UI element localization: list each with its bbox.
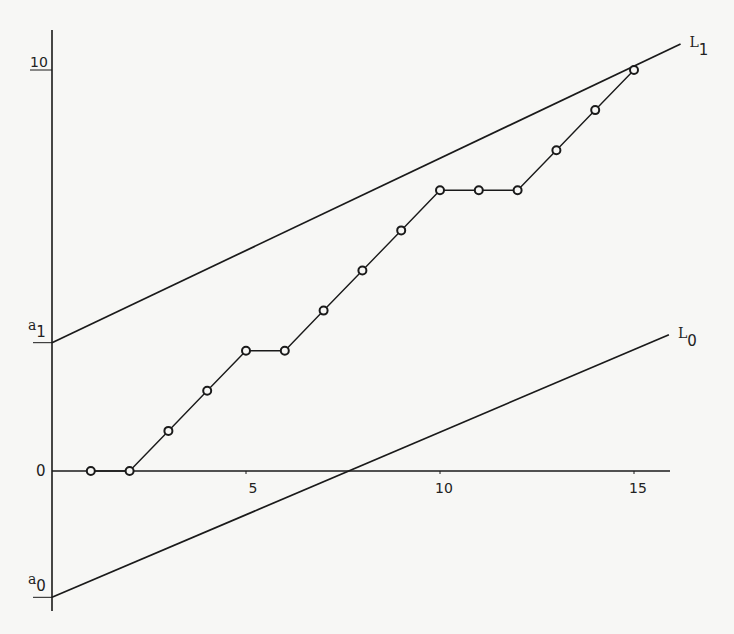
data-point: [126, 467, 134, 475]
line-L1: [52, 44, 681, 343]
data-point: [397, 226, 405, 234]
data-series: [87, 66, 638, 475]
y-tick-label: 10: [30, 54, 48, 70]
boundary-lines: [33, 44, 681, 597]
intercept-label-a0: a0: [28, 571, 46, 595]
x-tick-label: 15: [629, 480, 647, 496]
line-L0: [52, 335, 669, 598]
data-point: [87, 467, 95, 475]
data-point: [242, 347, 250, 355]
data-point: [630, 66, 638, 74]
chart: 01051015 a1L1a0L0: [0, 0, 734, 634]
data-point: [514, 186, 522, 194]
subscript: 1: [699, 41, 709, 59]
y-tick-label: 0: [36, 462, 46, 480]
data-point: [591, 106, 599, 114]
line-label-L1: L1: [690, 34, 709, 59]
data-point: [358, 267, 366, 275]
data-point: [281, 347, 289, 355]
labels: a1L1a0L0: [28, 34, 708, 595]
data-point: [475, 186, 483, 194]
x-tick-label: 5: [249, 480, 258, 496]
subscript: 0: [687, 332, 697, 350]
x-tick-label: 10: [435, 480, 453, 496]
subscript: 1: [36, 323, 46, 341]
data-point: [552, 146, 560, 154]
subscript: 0: [36, 577, 46, 595]
data-point: [436, 186, 444, 194]
data-point: [164, 427, 172, 435]
intercept-label-a1: a1: [28, 317, 46, 341]
axes: 01051015: [30, 30, 670, 611]
line-label-L0: L0: [678, 325, 697, 350]
data-point: [203, 387, 211, 395]
data-point: [320, 307, 328, 315]
